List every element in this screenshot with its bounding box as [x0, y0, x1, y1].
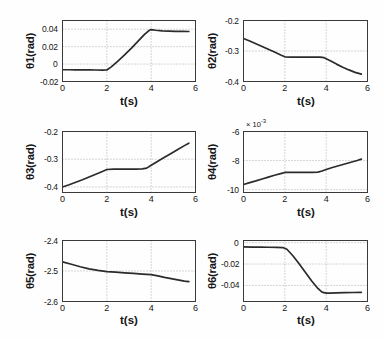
y-tick-label: -2.5 [44, 266, 58, 276]
x-tick-label: 4 [324, 303, 329, 313]
y-tick-label: -0.02 [221, 259, 239, 269]
x-tick-label: 0 [60, 83, 65, 93]
plot-theta6 [243, 240, 368, 302]
data-line-theta5 [63, 262, 189, 282]
exponent-power: -3 [261, 118, 266, 124]
plot-area-theta5 [62, 240, 196, 302]
x-tick-label: 2 [104, 303, 109, 313]
x-tick-label: 4 [149, 83, 154, 93]
x-tick-label: 6 [193, 83, 198, 93]
x-tick-label: 2 [104, 83, 109, 93]
y-axis-label-theta1: θ1(rad) [24, 33, 36, 69]
axes-frame [63, 132, 196, 193]
x-tick-label: 2 [282, 194, 287, 204]
plot-area-theta1 [62, 20, 196, 82]
y-tick-label: -6 [232, 127, 239, 137]
y-tick-label: -0.02 [40, 77, 58, 87]
y-axis-label-theta5: θ5(rad) [24, 253, 36, 289]
x-tick-label: 6 [193, 303, 198, 313]
y-tick-label: -0.4 [44, 182, 58, 192]
plot-area-theta6 [243, 240, 368, 302]
x-axis-label-theta5: t(s) [120, 314, 138, 326]
y-tick-label: -2.4 [44, 236, 58, 246]
x-tick-label: 4 [149, 194, 154, 204]
y-tick-label: -0.3 [225, 46, 239, 56]
y-tick-label: 0.04 [42, 24, 58, 34]
data-line-theta3 [63, 143, 189, 187]
y-axis-label-theta6: θ6(rad) [206, 253, 218, 289]
y-tick-label: -0.2 [44, 127, 58, 137]
x-axis-label-theta6: t(s) [297, 314, 315, 326]
x-tick-label: 4 [149, 303, 154, 313]
x-tick-label: 0 [241, 194, 246, 204]
exponent-base: × 10 [246, 120, 261, 129]
x-tick-label: 2 [282, 83, 287, 93]
plot-theta4 [243, 131, 368, 193]
multi-plot-figure: θ1(rad)t(s)-0.0200.020.040246θ2(rad)t(s)… [0, 0, 384, 340]
x-tick-label: 6 [365, 83, 370, 93]
plot-area-theta4 [243, 131, 368, 193]
y-tick-label: -2.6 [44, 297, 58, 307]
data-line-theta2 [244, 38, 362, 74]
y-tick-label: -10 [227, 185, 239, 195]
x-tick-label: 2 [282, 303, 287, 313]
x-tick-label: 0 [60, 303, 65, 313]
x-axis-label-theta2: t(s) [297, 95, 315, 107]
y-tick-label: 0 [53, 59, 58, 69]
y-tick-label: -0.3 [44, 154, 58, 164]
y-tick-label: -8 [232, 156, 239, 166]
y-axis-label-theta2: θ2(rad) [206, 33, 218, 69]
plot-area-theta3 [62, 131, 196, 193]
x-tick-label: 6 [365, 303, 370, 313]
x-tick-label: 4 [324, 83, 329, 93]
x-axis-label-theta1: t(s) [120, 95, 138, 107]
x-tick-label: 0 [241, 83, 246, 93]
data-line-theta4 [244, 159, 362, 184]
plot-theta1 [62, 20, 196, 82]
plot-theta2 [243, 20, 368, 82]
y-tick-label: 0.02 [42, 42, 58, 52]
plot-theta5 [62, 240, 196, 302]
x-tick-label: 2 [104, 194, 109, 204]
y-tick-label: -0.4 [225, 77, 239, 87]
plot-theta3 [62, 131, 196, 193]
x-tick-label: 6 [193, 194, 198, 204]
x-tick-label: 0 [60, 194, 65, 204]
y-axis-label-theta4: θ4(rad) [206, 144, 218, 180]
x-tick-label: 4 [324, 194, 329, 204]
plot-area-theta2 [243, 20, 368, 82]
y-tick-label: -0.04 [221, 280, 239, 290]
y-tick-label: -0.2 [225, 16, 239, 26]
x-tick-label: 6 [365, 194, 370, 204]
x-tick-label: 0 [241, 303, 246, 313]
data-line-theta6 [244, 247, 362, 293]
x-axis-label-theta4: t(s) [297, 206, 315, 218]
axis-exponent-theta4: × 10-3 [246, 118, 266, 129]
x-axis-label-theta3: t(s) [120, 206, 138, 218]
y-axis-label-theta3: θ3(rad) [24, 144, 36, 180]
y-tick-label: 0 [234, 238, 239, 248]
